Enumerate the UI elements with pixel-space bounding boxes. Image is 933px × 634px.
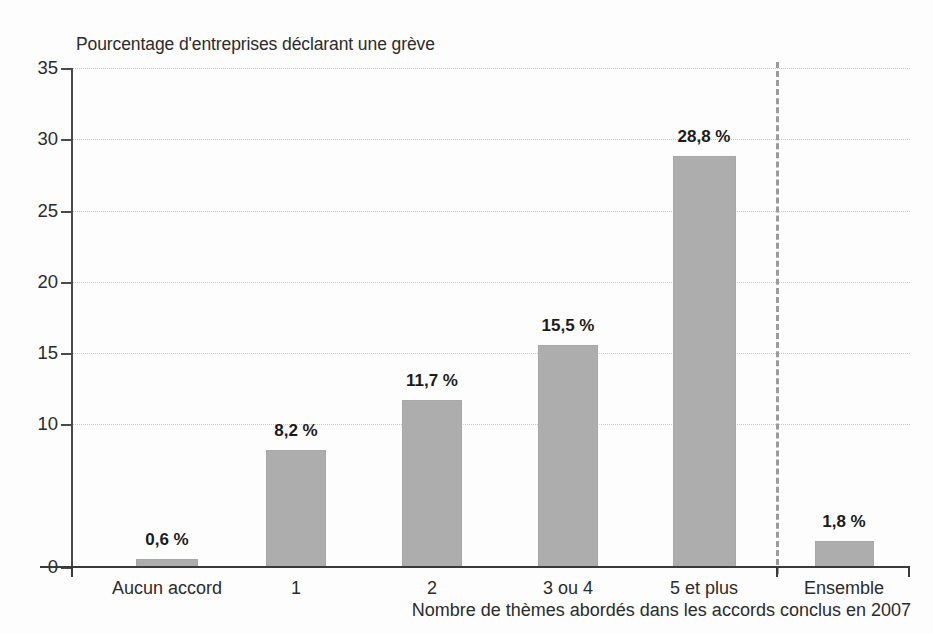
cat-label-5-et-plus: 5 et plus (670, 578, 738, 599)
x-tick-mark-separator (776, 566, 778, 577)
cat-label-1: 1 (291, 578, 301, 599)
category-separator (776, 62, 779, 574)
bar-value-label-1: 8,2 % (274, 421, 317, 441)
plot-area (72, 68, 910, 567)
gridline-15 (72, 353, 910, 354)
cat-label-ensemble: Ensemble (804, 578, 884, 599)
bar-5-et-plus (673, 156, 736, 567)
bar-value-label-aucun-accord: 0,6 % (145, 530, 188, 550)
y-axis-labels: 35 30 25 20 15 10 0 (0, 0, 58, 634)
bar-value-label-ensemble: 1,8 % (822, 512, 865, 532)
gridline-20 (72, 282, 910, 283)
gridline-35 (72, 68, 910, 69)
cat-label-3-ou-4: 3 ou 4 (543, 578, 593, 599)
bar-ensemble (815, 541, 874, 567)
y-tick-mark-25 (61, 211, 72, 213)
bar-value-label-5-et-plus: 28,8 % (678, 127, 731, 147)
x-axis-line (40, 566, 910, 568)
gridline-10 (72, 424, 910, 425)
gridline-30 (72, 139, 910, 140)
y-tick-label-25: 25 (12, 200, 58, 222)
cat-label-aucun-accord: Aucun accord (112, 578, 222, 599)
y-tick-mark-10 (61, 424, 72, 426)
y-tick-mark-30 (61, 139, 72, 141)
y-tick-label-15: 15 (12, 342, 58, 364)
gridline-25 (72, 211, 910, 212)
y-tick-label-30: 30 (12, 128, 58, 150)
y-tick-mark-15 (61, 353, 72, 355)
y-axis-line (71, 68, 73, 568)
y-tick-mark-20 (61, 282, 72, 284)
bar-chart: Pourcentage d'entreprises déclarant une … (0, 0, 933, 634)
cat-label-2: 2 (427, 578, 437, 599)
bar-value-label-3-ou-4: 15,5 % (542, 316, 595, 336)
bar-3-ou-4 (538, 345, 598, 567)
chart-title: Pourcentage d'entreprises déclarant une … (76, 34, 435, 55)
bar-1 (266, 450, 326, 567)
x-tick-mark-start (71, 566, 73, 577)
y-tick-label-10: 10 (12, 413, 58, 435)
y-tick-label-35: 35 (12, 57, 58, 79)
bar-2 (402, 400, 462, 567)
x-axis-caption: Nombre de thèmes abordés dans les accord… (412, 600, 911, 621)
y-tick-label-20: 20 (12, 271, 58, 293)
x-tick-mark-end (908, 566, 910, 577)
y-tick-mark-35 (61, 68, 72, 70)
bar-value-label-2: 11,7 % (406, 371, 458, 391)
